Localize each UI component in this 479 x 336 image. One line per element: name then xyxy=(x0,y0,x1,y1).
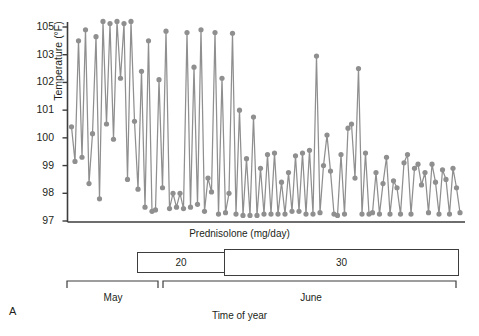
month-label-june: June xyxy=(163,292,459,303)
data-point xyxy=(429,162,434,167)
y-tick-label: 98 xyxy=(28,186,54,198)
x-axis-title: Time of year xyxy=(0,310,479,321)
data-point xyxy=(125,177,130,182)
data-point xyxy=(401,160,406,165)
data-point xyxy=(415,162,420,167)
data-point xyxy=(167,206,172,211)
y-tick-label: 99 xyxy=(28,159,54,171)
y-tick-label: 103 xyxy=(28,48,54,60)
data-point xyxy=(300,151,305,156)
data-point xyxy=(69,124,74,129)
data-point xyxy=(412,166,417,171)
data-point xyxy=(384,155,389,160)
data-point xyxy=(328,169,333,174)
data-point xyxy=(408,211,413,216)
axis-lines xyxy=(68,22,466,222)
data-point xyxy=(380,181,385,186)
data-point xyxy=(188,205,193,210)
y-tick-label: 101 xyxy=(28,103,54,115)
data-point xyxy=(191,65,196,70)
data-point xyxy=(345,126,350,131)
data-point xyxy=(265,152,270,157)
data-point xyxy=(156,77,161,82)
data-point xyxy=(97,196,102,201)
data-point xyxy=(230,31,235,36)
data-point xyxy=(160,185,165,190)
data-point xyxy=(170,191,175,196)
prednisolone-title: Prednisolone (mg/day) xyxy=(0,228,479,239)
data-point xyxy=(457,210,462,215)
data-point xyxy=(268,211,273,216)
data-point xyxy=(433,180,438,185)
data-point xyxy=(405,152,410,157)
data-point xyxy=(226,191,231,196)
data-point xyxy=(205,175,210,180)
data-point xyxy=(237,108,242,113)
data-point xyxy=(111,137,116,142)
data-point xyxy=(233,211,238,216)
data-point xyxy=(244,156,249,161)
data-point xyxy=(79,155,84,160)
data-point xyxy=(114,19,119,24)
dose-bar-30-label: 30 xyxy=(225,257,458,268)
data-point xyxy=(153,207,158,212)
data-point xyxy=(363,151,368,156)
data-point xyxy=(303,211,308,216)
data-point xyxy=(86,181,91,186)
data-point xyxy=(443,177,448,182)
data-point xyxy=(202,209,207,214)
month-label-may: May xyxy=(67,292,159,303)
data-point xyxy=(132,119,137,124)
data-point xyxy=(212,30,217,35)
data-point xyxy=(317,210,322,215)
data-point xyxy=(240,213,245,218)
data-point xyxy=(314,54,319,59)
data-point xyxy=(223,210,228,215)
data-point xyxy=(335,213,340,218)
data-point xyxy=(373,170,378,175)
data-point xyxy=(293,153,298,158)
data-point xyxy=(146,38,151,43)
data-point xyxy=(272,151,277,156)
data-point xyxy=(177,191,182,196)
data-point xyxy=(289,209,294,214)
y-tick-label: 102 xyxy=(28,75,54,87)
y-tick-label: 100 xyxy=(28,131,54,143)
data-point xyxy=(90,131,95,136)
data-point xyxy=(422,170,427,175)
data-point xyxy=(286,170,291,175)
data-point xyxy=(307,148,312,153)
data-point xyxy=(195,202,200,207)
temperature-line xyxy=(72,21,461,215)
data-point xyxy=(426,210,431,215)
data-point xyxy=(359,211,364,216)
data-point xyxy=(440,167,445,172)
data-point xyxy=(419,182,424,187)
data-point xyxy=(104,121,109,126)
data-point xyxy=(247,213,252,218)
data-point xyxy=(83,27,88,32)
data-point xyxy=(394,185,399,190)
data-point xyxy=(447,211,452,216)
data-point xyxy=(279,180,284,185)
data-point xyxy=(387,211,392,216)
data-point xyxy=(254,213,259,218)
data-point xyxy=(349,121,354,126)
data-point xyxy=(93,34,98,39)
data-point xyxy=(174,205,179,210)
y-tick-label: 105 xyxy=(28,20,54,32)
chart-canvas xyxy=(0,0,479,336)
data-point xyxy=(258,166,263,171)
y-tick-label: 97 xyxy=(28,214,54,226)
data-point xyxy=(338,152,343,157)
data-point xyxy=(282,211,287,216)
data-point xyxy=(163,29,168,34)
data-point xyxy=(296,209,301,214)
data-point xyxy=(198,27,203,32)
data-point xyxy=(370,210,375,215)
data-point xyxy=(139,69,144,74)
month-bracket-may xyxy=(67,281,158,288)
data-point xyxy=(251,114,256,119)
data-point xyxy=(391,178,396,183)
data-point xyxy=(454,185,459,190)
